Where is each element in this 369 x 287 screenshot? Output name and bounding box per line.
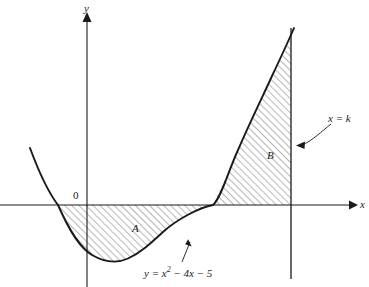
xk-leader-arrow — [296, 124, 331, 149]
origin-label: 0 — [73, 190, 79, 201]
vertical-line-label: x = k — [328, 113, 351, 124]
curve-equation-rhs: − 4x − 5 — [171, 267, 213, 279]
curve-equation-lhs: y = x — [144, 267, 167, 279]
region-a-hatch — [0, 0, 369, 287]
equation-leader-line — [182, 239, 192, 262]
y-axis-label: y — [84, 3, 89, 14]
region-b-hatch — [0, 0, 369, 287]
region-a-label: A — [132, 223, 139, 234]
curve-equation-label: y = x2 − 4x − 5 — [144, 266, 212, 279]
x-axis-label: x — [360, 199, 365, 210]
figure-canvas — [0, 0, 369, 287]
math-figure: y x 0 A B y = x2 − 4x − 5 x = k — [0, 0, 369, 287]
region-b-label: B — [267, 150, 274, 161]
